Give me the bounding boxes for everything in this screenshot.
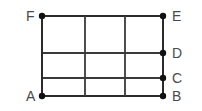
vertex-c-dot <box>160 75 166 81</box>
vertex-c-label: C <box>172 71 182 85</box>
vertex-b-label: B <box>172 89 181 103</box>
grid-lines-group <box>42 16 163 96</box>
figure-canvas: FEDCAB <box>0 0 202 111</box>
vertex-a-dot <box>39 93 45 99</box>
vertex-e-label: E <box>172 9 181 23</box>
vertex-e-dot <box>160 13 166 19</box>
vertex-d-label: D <box>172 46 182 60</box>
vertex-a-label: A <box>26 89 35 103</box>
vertex-b-dot <box>160 93 166 99</box>
vertex-f-dot <box>39 13 45 19</box>
vertex-dots-group <box>39 13 166 99</box>
vertex-d-dot <box>160 50 166 56</box>
vertex-f-label: F <box>26 9 35 23</box>
